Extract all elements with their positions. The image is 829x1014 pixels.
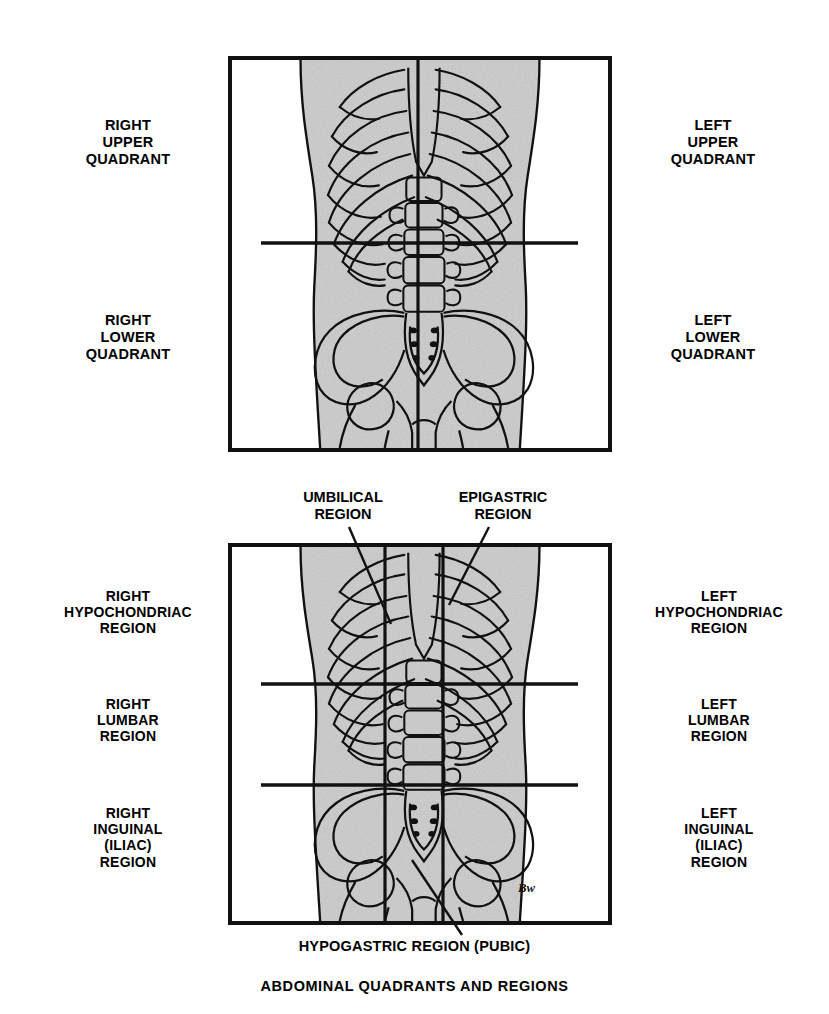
figure-caption: ABDOMINAL QUADRANTS AND REGIONS bbox=[0, 978, 829, 994]
label-right-lower-quadrant: RIGHT LOWER QUADRANT bbox=[58, 312, 198, 362]
annotation-hypogastric-region: HYPOGASTRIC REGION (PUBIC) bbox=[0, 938, 829, 954]
torso-illustration-quadrants bbox=[232, 60, 608, 448]
annotation-epigastric-region: EPIGASTRIC REGION bbox=[428, 489, 578, 523]
abdominal-regions-panel: Bw bbox=[228, 543, 612, 925]
label-left-upper-quadrant: LEFT UPPER QUADRANT bbox=[638, 117, 788, 167]
label-right-hypochondriac-region: RIGHT HYPOCHONDRIAC REGION bbox=[38, 588, 218, 637]
abdominal-quadrants-panel bbox=[228, 56, 612, 452]
artist-signature: Bw bbox=[517, 881, 535, 895]
label-right-inguinal-region: RIGHT INGUINAL (ILIAC) REGION bbox=[38, 805, 218, 870]
label-right-upper-quadrant: RIGHT UPPER QUADRANT bbox=[58, 117, 198, 167]
label-left-inguinal-region: LEFT INGUINAL (ILIAC) REGION bbox=[624, 805, 814, 870]
label-right-lumbar-region: RIGHT LUMBAR REGION bbox=[38, 696, 218, 745]
label-left-lumbar-region: LEFT LUMBAR REGION bbox=[624, 696, 814, 745]
label-left-lower-quadrant: LEFT LOWER QUADRANT bbox=[638, 312, 788, 362]
annotation-umbilical-region: UMBILICAL REGION bbox=[268, 489, 418, 523]
torso-illustration-regions: Bw bbox=[232, 547, 608, 921]
label-left-hypochondriac-region: LEFT HYPOCHONDRIAC REGION bbox=[624, 588, 814, 637]
